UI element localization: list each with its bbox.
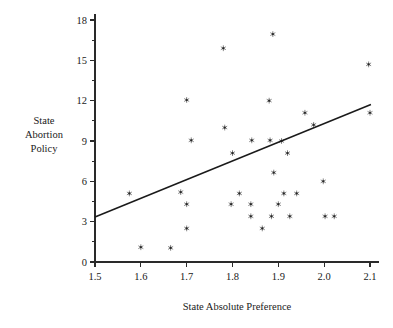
data-point-marker	[260, 225, 265, 231]
y-axis-title-line: State	[34, 115, 55, 126]
data-point-marker	[294, 191, 299, 197]
y-axis-title: StateAbortionPolicy	[25, 115, 64, 154]
data-point-marker	[249, 137, 254, 143]
y-axis-tick-labels: 0369121518	[77, 15, 88, 268]
data-point-marker	[138, 244, 143, 250]
x-axis-ticks	[95, 262, 370, 267]
regression-line-group	[95, 104, 371, 217]
x-tick-label: 1.6	[134, 271, 147, 282]
x-tick-label: 2.0	[318, 271, 331, 282]
data-point-marker	[184, 97, 189, 103]
data-point-marker	[287, 213, 292, 219]
data-point-marker	[302, 110, 307, 116]
data-point-markers	[127, 31, 373, 251]
data-point-marker	[323, 213, 328, 219]
data-point-marker	[268, 137, 273, 143]
y-tick-label: 15	[77, 55, 88, 66]
data-point-marker	[281, 191, 286, 197]
data-point-marker	[248, 213, 253, 219]
data-point-marker	[366, 61, 371, 67]
x-tick-label: 1.8	[226, 271, 239, 282]
x-tick-label: 1.9	[272, 271, 285, 282]
x-axis-tick-labels: 1.51.61.71.81.92.02.1	[88, 271, 376, 282]
plot-canvas: 0369121518 1.51.61.71.81.92.02.1 StateAb…	[0, 0, 393, 328]
regression-line	[95, 104, 371, 217]
x-tick-label: 1.5	[88, 271, 101, 282]
data-point-marker	[229, 201, 234, 207]
data-point-marker	[367, 110, 372, 116]
data-point-marker	[178, 189, 183, 195]
data-point-marker	[285, 150, 290, 156]
axes-group	[95, 14, 379, 262]
y-tick-label: 18	[77, 15, 88, 26]
data-point-marker	[168, 245, 173, 251]
y-tick-label: 6	[82, 176, 87, 187]
data-point-marker	[269, 213, 274, 219]
x-tick-label: 2.1	[363, 271, 376, 282]
x-tick-label: 1.7	[180, 271, 193, 282]
data-point-marker	[270, 31, 275, 37]
data-point-marker	[267, 98, 272, 104]
y-axis-ticks	[90, 20, 95, 262]
data-point-marker	[321, 178, 326, 184]
data-point-marker	[230, 150, 235, 156]
y-axis-title-line: Policy	[31, 143, 59, 154]
y-tick-label: 12	[77, 95, 88, 106]
data-point-marker	[184, 201, 189, 207]
data-point-marker	[237, 191, 242, 197]
scatter-plot-figure: 0369121518 1.51.61.71.81.92.02.1 StateAb…	[0, 0, 393, 328]
y-tick-label: 0	[82, 257, 87, 268]
data-point-marker	[332, 213, 337, 219]
data-point-marker	[189, 137, 194, 143]
y-tick-label: 9	[82, 136, 87, 147]
data-point-marker	[221, 45, 226, 51]
y-axis-title-line: Abortion	[25, 129, 64, 140]
data-point-marker	[271, 170, 276, 176]
data-point-marker	[222, 125, 227, 131]
data-point-marker	[184, 225, 189, 231]
data-point-marker	[127, 191, 132, 197]
y-tick-label: 3	[82, 216, 87, 227]
data-point-marker	[276, 201, 281, 207]
data-point-marker	[248, 201, 253, 207]
x-axis-title-label: State Absolute Preference	[183, 301, 292, 312]
